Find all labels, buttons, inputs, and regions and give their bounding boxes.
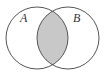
set-a-label: A xyxy=(19,11,28,25)
set-b-label: B xyxy=(73,11,81,25)
venn-diagram: A B xyxy=(0,0,105,75)
